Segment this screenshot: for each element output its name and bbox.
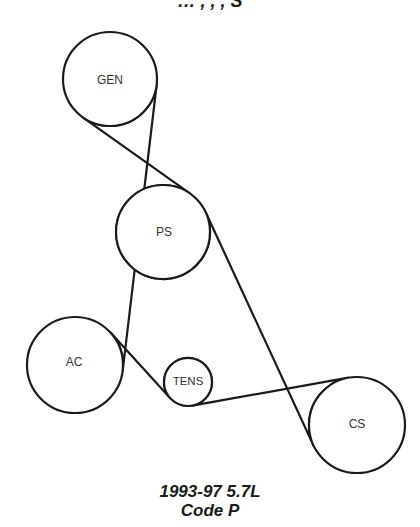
caption-code: Code P	[0, 501, 420, 520]
pulley-ac-label: AC	[66, 355, 83, 369]
pulley-cs: CS	[309, 377, 405, 473]
pulley-cs-label: CS	[349, 417, 366, 431]
diagram-caption: 1993-97 5.7L Code P	[0, 482, 420, 520]
pulley-gen-label: GEN	[97, 73, 123, 87]
pulley-gen: GEN	[63, 32, 157, 126]
belt-routing-diagram: GEN PS AC TENS CS	[0, 0, 420, 527]
pulley-ac: AC	[27, 317, 123, 413]
pulley-ps: PS	[116, 185, 210, 279]
pulley-ps-label: PS	[156, 225, 172, 239]
pulley-tens: TENS	[164, 358, 212, 406]
caption-engine: 1993-97 5.7L	[0, 482, 420, 501]
serpentine-belt	[83, 85, 349, 446]
pulley-tens-label: TENS	[173, 375, 204, 387]
